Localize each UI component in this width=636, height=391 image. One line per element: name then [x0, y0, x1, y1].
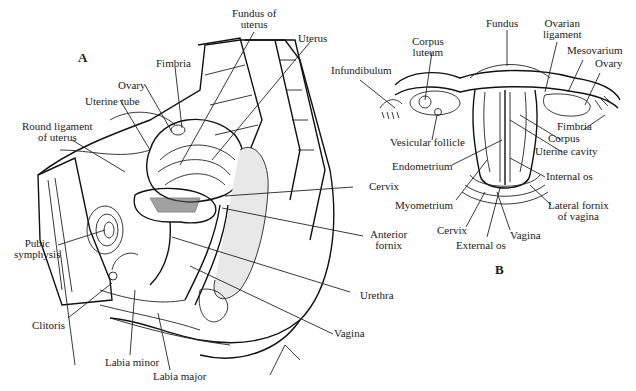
label-vagina-a: Vagina — [334, 328, 365, 339]
label-corpus-luteum: Corpus luteum — [412, 36, 444, 58]
label-vagina-b: Vagina — [510, 230, 541, 241]
label-uterine-cavity: Uterine cavity — [535, 146, 598, 157]
label-ovarian-ligament: Ovarian ligament — [543, 18, 582, 40]
label-fundus: Fundus — [486, 18, 518, 29]
label-clitoris: Clitoris — [32, 320, 65, 331]
label-corpus: Corpus — [548, 133, 580, 144]
label-ovary-a: Ovary — [118, 80, 146, 91]
anatomy-illustration — [0, 0, 636, 391]
label-fimbria-b: Fimbria — [557, 121, 592, 132]
panel-b-letter: B — [495, 262, 504, 278]
label-fimbria-a: Fimbria — [156, 58, 191, 69]
label-labia-minor: Labia minor — [105, 357, 159, 368]
label-lateral-fornix: Lateral fornix of vagina — [548, 200, 609, 222]
label-cervix-b: Cervix — [437, 225, 467, 236]
label-anterior-fornix: Anterior fornix — [370, 229, 407, 251]
label-urethra: Urethra — [360, 290, 394, 301]
label-infundibulum: Infundibulum — [331, 65, 392, 76]
label-mesovarium: Mesovarium — [567, 45, 623, 56]
label-ovary-b: Ovary — [595, 58, 623, 69]
label-uterus: Uterus — [298, 33, 327, 44]
label-fundus-of-uterus: Fundus of uterus — [232, 8, 276, 30]
label-external-os: External os — [456, 240, 506, 251]
label-endometrium: Endometrium — [392, 161, 453, 172]
label-myometrium: Myometrium — [395, 200, 453, 211]
label-pubic-symphysis: Pubic symphysis — [14, 238, 60, 260]
label-round-ligament: Round ligament of uterus — [22, 121, 93, 143]
panel-a-drawing — [38, 32, 363, 375]
panel-a-letter: A — [78, 50, 87, 66]
label-internal-os: Internal os — [546, 171, 593, 182]
label-labia-major: Labia major — [153, 371, 206, 382]
label-cervix-a: Cervix — [369, 181, 399, 192]
label-vesicular-follicle: Vesicular follicle — [390, 137, 465, 148]
label-uterine-tube: Uterine tube — [85, 96, 140, 107]
